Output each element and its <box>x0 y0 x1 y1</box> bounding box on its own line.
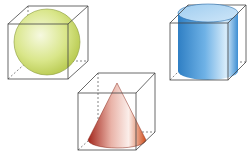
sphere-shape <box>14 9 80 75</box>
cone-in-cube <box>78 73 155 150</box>
sphere-in-cube <box>8 6 88 79</box>
cylinder-in-cube <box>170 4 246 80</box>
diagram-canvas <box>0 0 250 158</box>
cylinder-top <box>178 4 238 22</box>
